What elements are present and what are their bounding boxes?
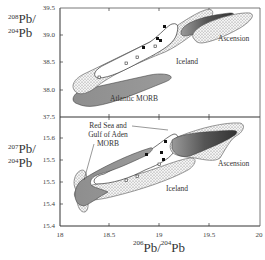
lower-tick-15.6: 15.6 bbox=[43, 134, 56, 142]
x-tick-18.5: 18.5 bbox=[103, 231, 116, 239]
lower-tick-15.4-b: 15.4 bbox=[43, 222, 56, 230]
label-upper-atlantic-morb: Atlantic MORB bbox=[110, 94, 158, 103]
upper-panel: 39.5 39.0 38.5 38.0 37.5 bbox=[43, 4, 260, 121]
x-tick-19: 19 bbox=[156, 231, 164, 239]
upper-tick-39.0: 39.0 bbox=[43, 31, 56, 39]
x-tick-19.5: 19.5 bbox=[203, 231, 216, 239]
label-lower-red-sea-line3: MORB bbox=[97, 139, 119, 148]
lower-tick-15.4-a: 15.4 bbox=[43, 200, 56, 208]
label-upper-ascension: Ascension bbox=[218, 34, 249, 43]
lower-tick-15.5-b: 15.5 bbox=[43, 178, 56, 186]
lower-panel: 15.6 15.5 15.5 15.4 15.4 18 18.5 19 19.5… bbox=[43, 117, 263, 239]
label-lower-red-sea-line2: Gulf of Aden bbox=[88, 130, 128, 139]
label-upper-iceland: Iceland bbox=[176, 57, 198, 66]
leader-line-right bbox=[132, 126, 168, 130]
upper-tick-38.5: 38.5 bbox=[43, 58, 56, 66]
x-tick-20: 20 bbox=[256, 231, 264, 239]
x-tick-18: 18 bbox=[57, 231, 65, 239]
chart-figure: 208Pb/ 204Pb 207Pb/ 204Pb 206Pb/204Pb bbox=[0, 0, 265, 260]
label-lower-ascension: Ascension bbox=[218, 159, 249, 168]
label-lower-iceland: Iceland bbox=[166, 184, 188, 193]
lower-tick-15.5-a: 15.5 bbox=[43, 156, 56, 164]
upper-tick-38.0: 38.0 bbox=[43, 86, 56, 94]
upper-tick-37.5: 37.5 bbox=[43, 113, 56, 121]
label-lower-red-sea-line1: Red Sea and bbox=[89, 121, 127, 130]
upper-tick-39.5: 39.5 bbox=[43, 4, 56, 12]
plot-svg: 39.5 39.0 38.5 38.0 37.5 bbox=[0, 0, 265, 260]
